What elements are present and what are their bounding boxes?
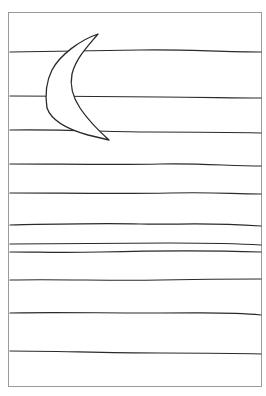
drawing-canvas [0,0,266,396]
frame-border [9,13,262,387]
